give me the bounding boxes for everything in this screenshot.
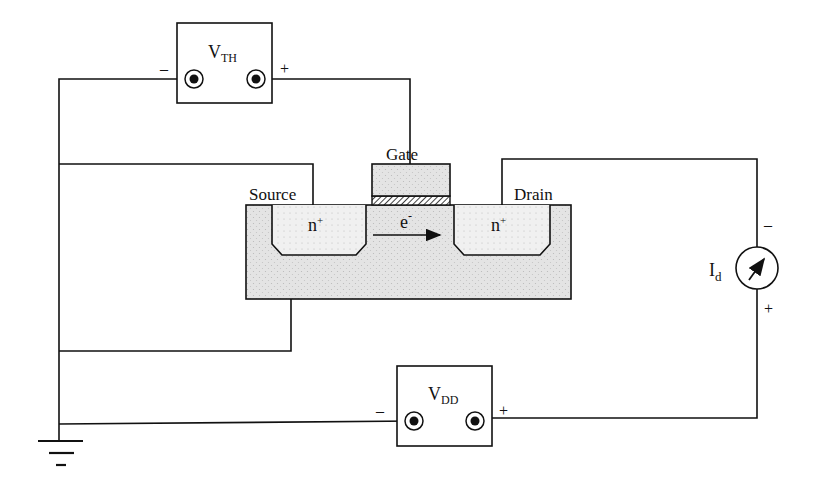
vdd-source[interactable]: VDD – + xyxy=(375,366,508,446)
vth-plus-sign: + xyxy=(280,60,289,77)
ammeter[interactable]: Id – + xyxy=(709,216,778,317)
terminal-dot-icon xyxy=(252,75,261,84)
meter-minus-sign: – xyxy=(763,216,773,233)
vdd-minus-sign: – xyxy=(375,402,385,419)
wire-vth-minus xyxy=(59,79,194,424)
gate-electrode[interactable] xyxy=(372,164,450,196)
ground-icon xyxy=(38,441,83,465)
wire-meter-vdd xyxy=(475,289,757,418)
terminal-dot-icon xyxy=(410,417,419,426)
source-n-plus-well xyxy=(272,205,366,255)
meter-label: Id xyxy=(709,260,722,284)
drain-label: Drain xyxy=(514,185,553,204)
wire-vdd-minus xyxy=(59,421,414,424)
gate-oxide xyxy=(372,196,450,205)
terminal-dot-icon xyxy=(190,75,199,84)
mosfet: Gate Source Drain n+ n+ e- xyxy=(246,145,571,299)
wire-body xyxy=(59,299,291,351)
source-label: Source xyxy=(249,185,296,204)
terminal-dot-icon xyxy=(471,417,480,426)
drain-n-plus-well xyxy=(454,205,550,255)
mosfet-circuit-diagram: VTH – + Gate Source Drain n+ n+ e- Id – … xyxy=(0,0,813,489)
gate-label: Gate xyxy=(386,145,418,164)
meter-plus-sign: + xyxy=(764,300,773,317)
vth-minus-sign: – xyxy=(159,60,169,77)
vdd-plus-sign: + xyxy=(499,402,508,419)
vth-source[interactable]: VTH – + xyxy=(159,23,289,103)
